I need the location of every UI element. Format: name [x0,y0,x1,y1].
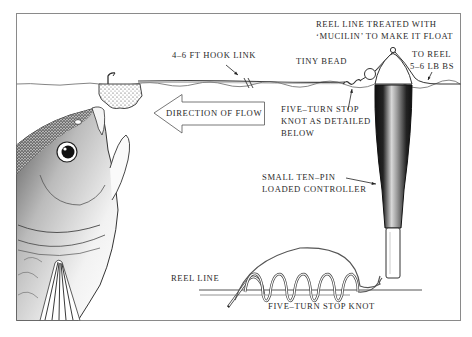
label-to-reel: TO REEL [412,49,451,61]
label-stop-knot-1: FIVE–TURN STOP [281,104,359,116]
rig-diagram: 4–6 FT HOOK LINK REEL LINE TREATED WITH … [0,0,472,337]
float-eye [390,47,395,52]
label-reel-line-treated-1: REEL LINE TREATED WITH [316,19,437,31]
label-stop-knot-2: KNOT AS DETAILED [281,116,371,128]
label-controller-2: LOADED CONTROLLER [262,184,366,196]
float-tip [375,54,412,85]
fish-head [17,107,130,321]
controller-float-stem [386,228,400,278]
tiny-bead [365,69,376,80]
label-direction-of-flow: DIRECTION OF FLOW [166,108,262,120]
label-stop-knot-3: BELOW [281,128,315,140]
label-line-strength: 5–6 LB BS [410,61,454,73]
controller-float-body [375,85,412,228]
label-hook-link: 4–6 FT HOOK LINK [172,50,256,62]
bread-crust-bait [99,84,142,109]
stop-knot [343,80,361,85]
label-reel-line-treated-2: ‘MUCILIN’ TO MAKE IT FLOAT [316,31,453,43]
label-controller-1: SMALL TEN–PIN [262,172,335,184]
label-tiny-bead: TINY BEAD [296,56,347,68]
label-knot-caption: FIVE–TURN STOP KNOT [268,301,375,313]
label-reel-line: REEL LINE [171,273,219,285]
